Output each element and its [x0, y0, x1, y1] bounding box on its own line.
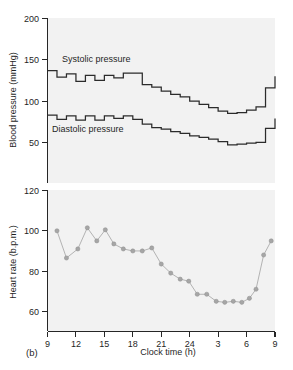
- heart-rate-point: [254, 287, 258, 291]
- heart-rate-point: [231, 299, 235, 303]
- top-plot-background: [48, 18, 275, 183]
- heart-rate-point: [195, 292, 199, 296]
- heart-rate-point: [159, 262, 163, 266]
- x-tick-label-6: 3: [216, 339, 221, 349]
- hr-ytick-label-80: 80: [29, 267, 39, 277]
- heart-rate-point: [240, 300, 244, 304]
- heart-rate-point: [85, 226, 89, 230]
- systolic-pressure-label: Systolic pressure: [62, 54, 131, 64]
- x-axis-title: Clock time (h): [140, 347, 196, 357]
- heart-rate-point: [223, 300, 227, 304]
- heart-rate-point: [55, 229, 59, 233]
- hr-ytick-label-100: 100: [24, 226, 39, 236]
- x-tick-label-2: 15: [99, 339, 109, 349]
- x-tick-label-8: 9: [272, 339, 277, 349]
- bp-y-axis-title: Blood pressure (mmHg): [8, 52, 18, 148]
- heart-rate-point: [178, 277, 182, 281]
- heart-rate-point: [247, 296, 251, 300]
- heart-rate-point: [269, 239, 273, 243]
- x-tick-label-3: 18: [128, 339, 138, 349]
- diastolic-pressure-label: Diastolic pressure: [52, 124, 124, 134]
- hr-ytick-label-60: 60: [29, 307, 39, 317]
- top-panel-axes: 200 150 100 50 Blood pressure (mmHg): [8, 14, 48, 183]
- heart-rate-point: [150, 246, 154, 250]
- bp-ytick-label-50: 50: [29, 138, 39, 148]
- heart-rate-point: [205, 292, 209, 296]
- heart-rate-point: [64, 256, 68, 260]
- bp-ytick-label-200: 200: [24, 14, 39, 24]
- hr-ytick-label-120: 120: [24, 186, 39, 196]
- heart-rate-point: [187, 279, 191, 283]
- heart-rate-point: [131, 249, 135, 253]
- heart-rate-point: [140, 249, 144, 253]
- x-tick-label-0: 9: [45, 339, 50, 349]
- panel-caption: (b): [26, 347, 38, 358]
- hr-y-axis-title: Heart rate (b.p.m.): [8, 225, 18, 299]
- x-tick-label-1: 12: [71, 339, 81, 349]
- figure-panel-b: 200 150 100 50 Blood pressure (mmHg) Sys…: [0, 0, 293, 370]
- heart-rate-point: [214, 299, 218, 303]
- heart-rate-point: [95, 239, 99, 243]
- chart-svg: 200 150 100 50 Blood pressure (mmHg) Sys…: [0, 0, 293, 370]
- heart-rate-point: [76, 247, 80, 251]
- bp-ytick-label-100: 100: [24, 97, 39, 107]
- bottom-plot-background: [48, 190, 275, 331]
- heart-rate-point: [262, 253, 266, 257]
- bp-ytick-label-150: 150: [24, 55, 39, 65]
- heart-rate-point: [169, 271, 173, 275]
- heart-rate-point: [103, 228, 107, 232]
- heart-rate-point: [121, 247, 125, 251]
- x-tick-label-7: 6: [244, 339, 249, 349]
- x-axis-tick-marks: [48, 332, 276, 337]
- heart-rate-point: [112, 242, 116, 246]
